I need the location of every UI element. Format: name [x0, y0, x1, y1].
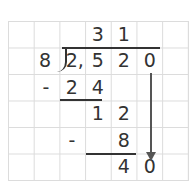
step2-digit-1: 1 [85, 100, 111, 127]
dividend-digit-2: 5 [85, 47, 111, 74]
quotient-digit-1: 3 [85, 21, 111, 48]
dividend-digit-1: 2, [62, 47, 88, 74]
bring-down-arrow [150, 73, 152, 159]
remainder-digit-1: 4 [111, 153, 137, 180]
minus-sign-1: - [33, 74, 59, 101]
dividend-digit-3: 2 [111, 47, 137, 74]
step1-digit-1: 2 [59, 74, 85, 101]
minus-sign-2: - [59, 127, 85, 154]
arrow-down-icon [146, 152, 156, 161]
divisor: 8 [33, 47, 59, 74]
quotient-digit-2: 1 [111, 21, 137, 48]
step3-digit-1: 8 [111, 127, 137, 154]
step2-digit-2: 2 [111, 100, 137, 127]
dividend-digit-4: 0 [137, 47, 163, 74]
step1-digit-2: 4 [85, 74, 111, 101]
